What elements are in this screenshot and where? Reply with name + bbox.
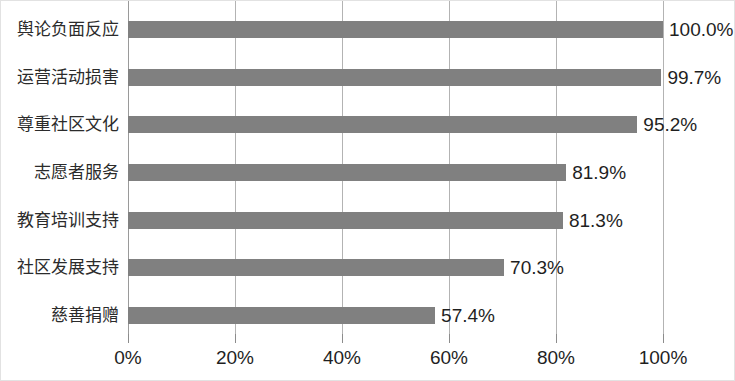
bar-value-label: 70.3% [510, 259, 564, 276]
bar-value-label: 95.2% [643, 116, 697, 133]
axis-tick-label: 80% [537, 348, 575, 368]
bar-value-label: 100.0% [669, 21, 733, 38]
bar-value-label: 57.4% [441, 307, 495, 324]
bar-value-label: 99.7% [667, 69, 721, 86]
category-label: 尊重社区文化 [1, 116, 119, 133]
axis-tick-label: 20% [216, 348, 254, 368]
value-axis: 0%20%40%60%80%100% [128, 334, 663, 381]
bar [128, 164, 566, 181]
bar-value-label: 81.9% [572, 164, 626, 181]
category-label: 志愿者服务 [1, 164, 119, 181]
category-label: 慈善捐赠 [1, 307, 119, 324]
gridline [663, 1, 664, 334]
category-label: 运营活动损害 [1, 69, 119, 86]
axis-tick [556, 334, 557, 343]
bar [128, 307, 435, 324]
axis-tick [663, 334, 664, 343]
axis-tick [342, 334, 343, 343]
category-axis-labels: 舆论负面反应运营活动损害尊重社区文化志愿者服务教育培训支持社区发展支持慈善捐赠 [1, 1, 127, 334]
plot-area: 100.0%99.7%95.2%81.9%81.3%70.3%57.4% [128, 1, 663, 334]
axis-tick [449, 334, 450, 343]
axis-tick-label: 0% [114, 348, 141, 368]
bar [128, 259, 504, 276]
horizontal-bar-chart: 舆论负面反应运营活动损害尊重社区文化志愿者服务教育培训支持社区发展支持慈善捐赠 … [0, 0, 735, 381]
bar-value-label: 81.3% [569, 212, 623, 229]
bar [128, 69, 661, 86]
axis-tick [235, 334, 236, 343]
bar [128, 21, 663, 38]
bar [128, 116, 637, 133]
axis-tick [128, 334, 129, 343]
axis-tick-label: 40% [323, 348, 361, 368]
category-label: 社区发展支持 [1, 259, 119, 276]
category-label: 教育培训支持 [1, 212, 119, 229]
category-label: 舆论负面反应 [1, 21, 119, 38]
axis-tick-label: 60% [430, 348, 468, 368]
bar [128, 212, 563, 229]
axis-tick-label: 100% [639, 348, 688, 368]
